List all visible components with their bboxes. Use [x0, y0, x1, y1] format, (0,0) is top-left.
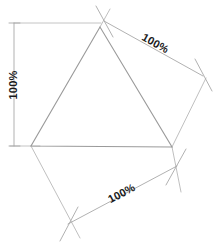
technical-drawing-svg: 100% 100% 100%: [0, 0, 224, 248]
construction-line-apex-extension: [100, 9, 110, 27]
dimension-label-left: 100%: [7, 71, 19, 100]
dimension-labels-group: 100% 100% 100%: [7, 31, 171, 205]
construction-line-right-vertex-lower: [172, 147, 181, 192]
dimension-bottom-tick-end: [166, 149, 186, 185]
drawing-canvas: 100% 100% 100%: [0, 0, 224, 248]
dimension-label-bottom: 100%: [106, 181, 137, 205]
dimension-label-upper-right: 100%: [140, 31, 171, 56]
construction-line-left-vertex-lower: [31, 146, 80, 238]
dimension-left: [9, 23, 101, 146]
dimension-bottom-tick-start: [60, 207, 78, 241]
dimension-upper-right-tick-end: [195, 59, 212, 91]
construction-lines-group: [31, 9, 206, 238]
dimension-upper-right-tick-start: [96, 6, 113, 37]
construction-line-right-vertex-upper: [172, 78, 206, 147]
